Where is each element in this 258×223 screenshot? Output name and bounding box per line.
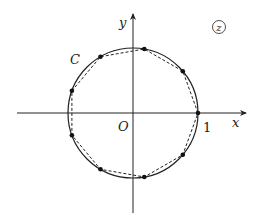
root-point [70, 89, 75, 94]
complex-plane-diagram: C O 1 x y z [0, 0, 258, 223]
y-axis-label: y [118, 15, 127, 30]
root-point [181, 153, 186, 158]
root-point [181, 69, 186, 74]
root-point [142, 175, 147, 180]
unit-label: 1 [203, 120, 211, 135]
root-point [70, 133, 75, 138]
curve-label: C [70, 52, 80, 67]
root-point [98, 167, 103, 172]
x-axis-label: x [232, 115, 240, 130]
root-point [98, 54, 103, 59]
origin-label: O [118, 119, 129, 134]
root-point [196, 111, 201, 116]
root-point [142, 47, 147, 52]
plane-label: z [215, 22, 222, 33]
